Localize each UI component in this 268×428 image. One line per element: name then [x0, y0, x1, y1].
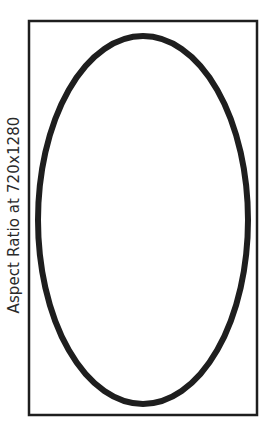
- ellipse-shape: [38, 36, 248, 404]
- aspect-ratio-diagram: [0, 0, 268, 428]
- aspect-ratio-label: Aspect Ratio at 720x1280: [5, 117, 23, 314]
- frame-rectangle: [29, 21, 257, 415]
